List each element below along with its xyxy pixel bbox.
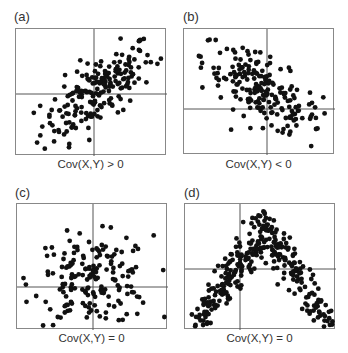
data-point bbox=[96, 92, 101, 97]
data-point bbox=[218, 289, 223, 294]
data-point bbox=[129, 284, 134, 289]
data-point bbox=[314, 301, 319, 306]
data-point bbox=[283, 245, 288, 250]
data-point bbox=[268, 54, 273, 59]
data-point bbox=[298, 288, 303, 293]
data-point bbox=[58, 108, 63, 113]
data-point bbox=[281, 91, 286, 96]
data-point bbox=[217, 298, 222, 303]
data-point bbox=[301, 264, 306, 269]
data-point bbox=[300, 116, 305, 121]
data-point bbox=[124, 84, 129, 89]
data-point bbox=[322, 324, 327, 329]
data-point bbox=[137, 39, 142, 44]
data-point bbox=[279, 85, 284, 90]
data-point bbox=[255, 89, 260, 94]
data-point bbox=[237, 240, 242, 245]
data-point bbox=[269, 123, 274, 128]
data-point bbox=[70, 301, 75, 306]
scatter-plot-uncorrelated bbox=[16, 203, 167, 329]
data-point bbox=[136, 76, 141, 81]
data-point bbox=[87, 273, 92, 278]
data-point bbox=[83, 267, 88, 272]
data-point bbox=[328, 323, 333, 328]
data-point bbox=[256, 239, 261, 244]
data-point bbox=[327, 309, 332, 314]
data-point bbox=[238, 72, 243, 77]
data-point bbox=[57, 130, 62, 135]
data-point bbox=[68, 308, 73, 313]
data-point bbox=[269, 92, 274, 97]
data-point bbox=[280, 130, 285, 135]
data-point bbox=[79, 119, 84, 124]
data-point bbox=[228, 268, 233, 273]
data-point bbox=[41, 323, 46, 328]
data-point bbox=[98, 103, 103, 108]
data-point bbox=[205, 321, 210, 326]
data-point bbox=[271, 266, 276, 271]
data-point bbox=[248, 58, 253, 63]
data-point bbox=[228, 259, 233, 264]
data-point bbox=[91, 290, 96, 295]
data-point bbox=[271, 218, 276, 223]
data-point bbox=[131, 290, 136, 295]
data-point bbox=[248, 91, 253, 96]
data-point bbox=[293, 105, 298, 110]
panel-b: (b) Cov(X,Y) < 0 bbox=[174, 0, 348, 176]
data-point bbox=[309, 144, 314, 149]
data-point bbox=[70, 98, 75, 103]
data-point bbox=[48, 307, 53, 312]
data-point bbox=[308, 267, 313, 272]
data-point bbox=[161, 268, 166, 273]
data-point bbox=[49, 108, 54, 113]
data-point bbox=[224, 77, 229, 82]
panel-c: (c) Cov(X,Y) = 0 bbox=[0, 176, 174, 353]
data-point bbox=[93, 69, 98, 74]
data-point bbox=[63, 73, 68, 78]
data-point bbox=[102, 101, 107, 106]
data-point bbox=[281, 276, 286, 281]
data-point bbox=[317, 309, 322, 314]
data-point bbox=[79, 110, 84, 115]
panel-d: (d) Cov(X,Y) = 0 bbox=[174, 176, 348, 353]
data-point bbox=[219, 274, 224, 279]
data-point bbox=[119, 71, 124, 76]
data-point bbox=[104, 310, 109, 315]
data-point bbox=[321, 312, 326, 317]
data-point bbox=[109, 96, 114, 101]
data-point bbox=[137, 48, 142, 53]
data-point bbox=[75, 245, 80, 250]
panel-label: (a) bbox=[14, 9, 30, 24]
data-point bbox=[311, 318, 316, 323]
data-point bbox=[107, 303, 112, 308]
data-point bbox=[114, 52, 119, 57]
data-point bbox=[234, 236, 239, 241]
data-point bbox=[118, 36, 123, 41]
data-point bbox=[239, 252, 244, 257]
data-point bbox=[117, 288, 122, 293]
data-point bbox=[76, 272, 81, 277]
data-point bbox=[216, 83, 221, 88]
data-point bbox=[207, 37, 212, 42]
data-point bbox=[241, 114, 246, 119]
data-point bbox=[95, 247, 100, 252]
data-point bbox=[258, 50, 263, 55]
data-point bbox=[86, 293, 91, 298]
data-point bbox=[90, 247, 95, 252]
data-point bbox=[272, 240, 277, 245]
data-point bbox=[263, 78, 268, 83]
data-point bbox=[111, 270, 116, 275]
data-point bbox=[119, 250, 124, 255]
data-point bbox=[80, 261, 85, 266]
data-point bbox=[246, 100, 251, 105]
data-point bbox=[307, 102, 312, 107]
scatter-plot-negative bbox=[183, 28, 334, 154]
data-point bbox=[124, 235, 129, 240]
data-point bbox=[98, 64, 103, 69]
data-point bbox=[43, 299, 48, 304]
data-point bbox=[292, 246, 297, 251]
data-point bbox=[230, 64, 235, 69]
data-point bbox=[287, 288, 292, 293]
data-point bbox=[87, 301, 92, 306]
data-point bbox=[143, 60, 148, 65]
